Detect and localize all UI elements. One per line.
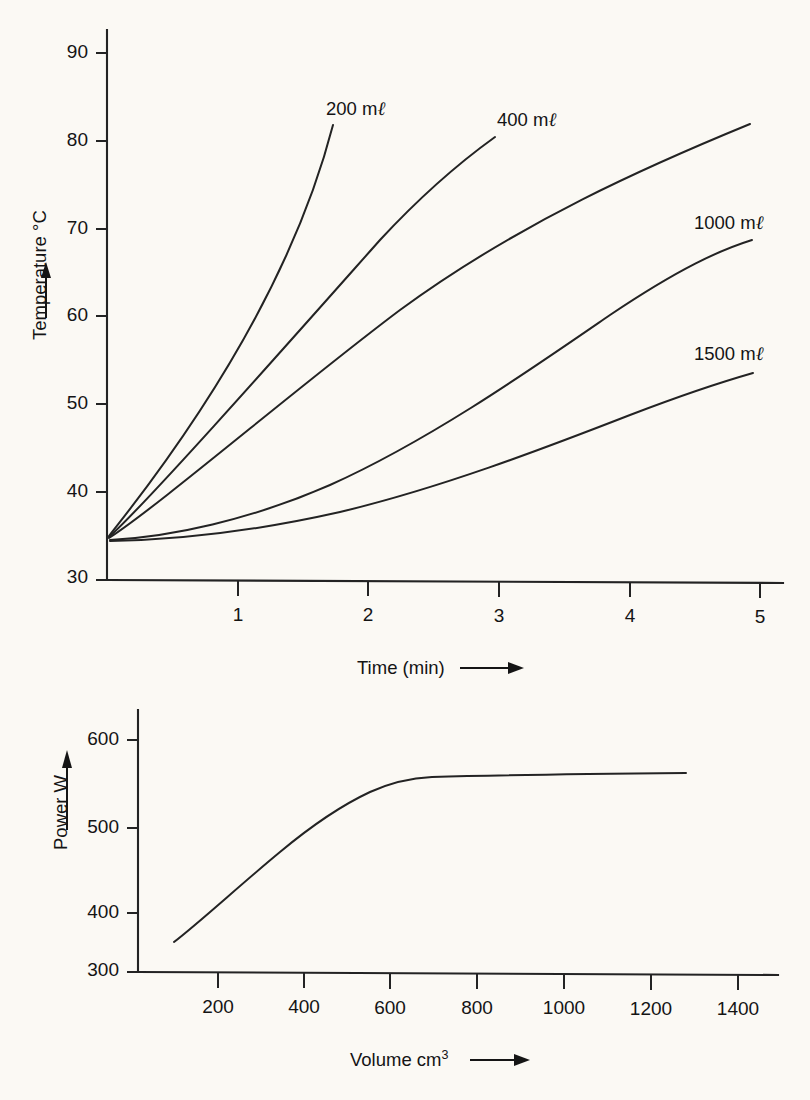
y-tick-label-400: 400 <box>87 901 119 922</box>
x-tick-label-1400: 1400 <box>717 998 759 1019</box>
arrow-right-icon <box>514 1054 530 1066</box>
x-tick-label-600: 600 <box>374 997 406 1018</box>
y-tick-label-60: 60 <box>67 304 88 325</box>
y-tick-label-50: 50 <box>67 392 88 413</box>
y-tick-label-300: 300 <box>87 959 119 980</box>
curve-1500ml <box>110 373 753 541</box>
x-axis-title-group-volume: Volume cm3 <box>350 1048 530 1070</box>
x-axis-line-time <box>107 580 783 583</box>
series-label-200ml: 200 mℓ <box>326 98 385 119</box>
x-tick-label-1: 1 <box>233 604 244 625</box>
series-label-1500ml: 1500 mℓ <box>694 343 764 364</box>
y-tick-label-90: 90 <box>67 41 88 62</box>
x-axis-title-time: Time (min) <box>357 657 445 678</box>
y-tick-label-500: 500 <box>87 816 119 837</box>
y-tick-label-70: 70 <box>67 217 88 238</box>
chart-power-vs-volume: 600 500 400 300 200 400 600 800 1000 120… <box>0 700 810 1100</box>
series-label-400ml: 400 mℓ <box>497 109 556 130</box>
figure-container: 90 80 70 60 50 40 30 1 2 3 4 5 200 mℓ 40… <box>0 0 810 1100</box>
x-tick-label-800: 800 <box>461 997 493 1018</box>
arrow-up-icon <box>62 750 72 768</box>
y-axis-title-power: Power W <box>50 774 71 850</box>
series-label-1000ml: 1000 mℓ <box>694 212 764 233</box>
curve-power <box>174 773 686 942</box>
y-tick-label-600: 600 <box>87 728 119 749</box>
chart-temperature-vs-time: 90 80 70 60 50 40 30 1 2 3 4 5 200 mℓ 40… <box>0 0 810 700</box>
arrow-right-icon <box>508 662 524 674</box>
x-tick-label-1200: 1200 <box>630 998 672 1019</box>
x-axis-title-volume: Volume cm3 <box>350 1048 449 1070</box>
curve-upper-branch <box>109 124 750 538</box>
y-tick-label-80: 80 <box>67 129 88 150</box>
curve-400ml <box>109 137 495 537</box>
curve-1000ml <box>110 240 752 540</box>
x-tick-label-2: 2 <box>363 604 374 625</box>
y-axis-title-temperature: Temperature °C <box>29 210 50 340</box>
y-tick-label-30: 30 <box>67 566 88 587</box>
y-tick-label-40: 40 <box>67 480 88 501</box>
y-axis-ticks-power <box>127 740 138 972</box>
y-axis-title-group-power: Power W <box>50 750 72 850</box>
x-tick-label-4: 4 <box>625 605 636 626</box>
x-axis-title-group-time: Time (min) <box>357 657 524 678</box>
x-axis-ticks-volume <box>218 973 738 990</box>
y-axis-ticks-temperature <box>96 53 107 580</box>
y-axis-title-group-temperature: Temperature °C <box>29 210 51 340</box>
x-tick-label-200: 200 <box>202 996 234 1017</box>
x-axis-line-volume <box>138 972 778 975</box>
x-tick-label-400: 400 <box>288 996 320 1017</box>
x-tick-label-1000: 1000 <box>543 997 585 1018</box>
x-tick-label-5: 5 <box>755 606 766 627</box>
x-tick-label-3: 3 <box>494 605 505 626</box>
